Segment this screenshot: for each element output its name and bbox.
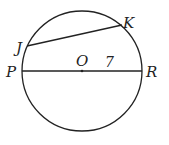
label-p: P bbox=[5, 63, 17, 81]
radius-label: 7 bbox=[105, 54, 114, 70]
label-k: K bbox=[122, 14, 135, 32]
label-o: O bbox=[76, 52, 88, 70]
label-r: R bbox=[145, 63, 157, 81]
chord-jk bbox=[27, 25, 122, 46]
center-point bbox=[81, 70, 84, 73]
circle-diagram: J K P O 7 R bbox=[0, 0, 169, 145]
label-j: J bbox=[13, 39, 23, 57]
